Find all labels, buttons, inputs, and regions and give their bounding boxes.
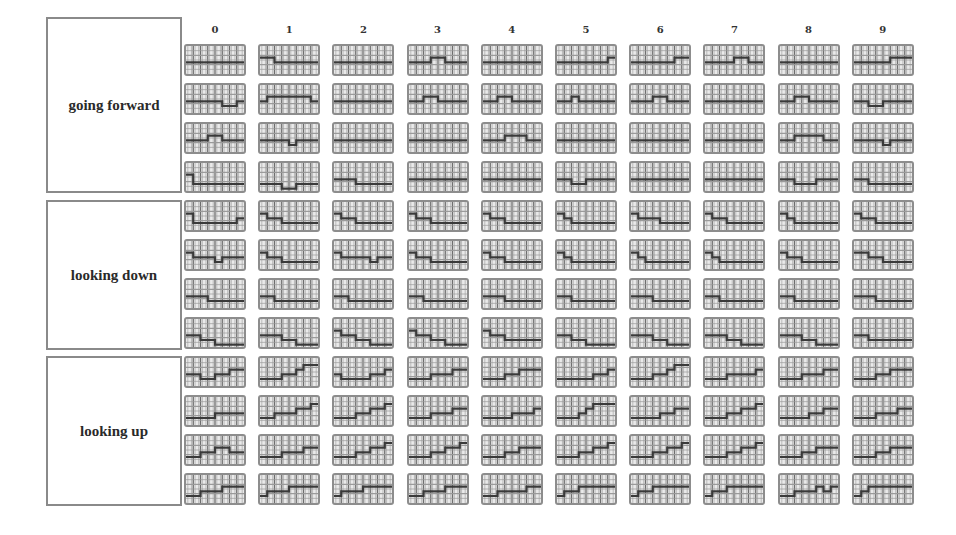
step-plot-cell (258, 434, 320, 466)
step-plot-cell (629, 161, 691, 193)
step-plot-cell (184, 317, 246, 349)
step-plot-cell (332, 200, 394, 232)
step-plot-cell (629, 356, 691, 388)
step-plot-cell (852, 122, 914, 154)
step-plot-cell (852, 434, 914, 466)
step-plot-cell (703, 44, 765, 76)
column-header-2: 2 (332, 24, 394, 35)
step-plot-cell (407, 473, 469, 505)
step-plot-cell (481, 395, 543, 427)
step-plot-cell (407, 278, 469, 310)
step-plot-cell (778, 161, 840, 193)
step-plot-cell (258, 356, 320, 388)
step-plot-cell (555, 239, 617, 271)
step-plot-cell (852, 83, 914, 115)
step-plot-cell (481, 239, 543, 271)
step-plot-cell (778, 83, 840, 115)
step-plot-cell (258, 239, 320, 271)
step-plot-cell (629, 239, 691, 271)
step-plot-cell (332, 161, 394, 193)
step-plot-cell (481, 122, 543, 154)
step-plot-cell (481, 161, 543, 193)
group-box-looking-up: looking up (46, 356, 182, 506)
step-plot-cell (703, 395, 765, 427)
step-plot-cell (555, 473, 617, 505)
step-plot-cell (481, 83, 543, 115)
step-plot-cell (481, 317, 543, 349)
step-plot-cell (852, 239, 914, 271)
group-box-going-forward: going forward (46, 17, 182, 193)
step-plot-cell (332, 122, 394, 154)
step-plot-cell (629, 200, 691, 232)
step-plot-cell (778, 278, 840, 310)
column-header-7: 7 (703, 24, 765, 35)
step-plot-cell (332, 239, 394, 271)
step-plot-cell (629, 317, 691, 349)
step-plot-cell (184, 239, 246, 271)
column-header-1: 1 (258, 24, 320, 35)
step-plot-cell (852, 395, 914, 427)
step-plot-cell (407, 239, 469, 271)
step-plot-cell (407, 122, 469, 154)
step-plot-cell (407, 356, 469, 388)
step-plot-cell (703, 239, 765, 271)
step-plot-cell (555, 395, 617, 427)
step-plot-cell (332, 434, 394, 466)
step-plot-cell (778, 122, 840, 154)
column-header-9: 9 (852, 24, 914, 35)
step-plot-cell (778, 395, 840, 427)
step-plot-cell (778, 44, 840, 76)
step-plot-cell (481, 473, 543, 505)
step-plot-cell (184, 200, 246, 232)
step-plot-cell (332, 278, 394, 310)
step-plot-cell (332, 317, 394, 349)
step-plot-cell (184, 356, 246, 388)
step-plot-cell (258, 473, 320, 505)
step-plot-cell (258, 395, 320, 427)
step-plot-cell (481, 278, 543, 310)
step-plot-cell (629, 395, 691, 427)
step-plot-cell (184, 434, 246, 466)
step-plot-cell (703, 434, 765, 466)
step-plot-cell (184, 161, 246, 193)
step-plot-cell (555, 356, 617, 388)
step-plot-cell (258, 44, 320, 76)
step-plot-cell (555, 317, 617, 349)
step-plot-cell (778, 317, 840, 349)
step-plot-cell (703, 161, 765, 193)
column-header-5: 5 (555, 24, 617, 35)
step-plot-cell (555, 122, 617, 154)
step-plot-cell (555, 161, 617, 193)
step-plot-cell (407, 434, 469, 466)
step-plot-cell (407, 44, 469, 76)
group-label: looking up (80, 423, 148, 440)
step-plot-cell (332, 473, 394, 505)
step-plot-cell (332, 356, 394, 388)
step-plot-cell (852, 317, 914, 349)
group-box-looking-down: looking down (46, 200, 182, 350)
step-plot-cell (778, 239, 840, 271)
column-header-3: 3 (407, 24, 469, 35)
step-plot-cell (407, 395, 469, 427)
column-header-4: 4 (481, 24, 543, 35)
step-plot-cell (407, 317, 469, 349)
step-plot-cell (481, 434, 543, 466)
step-plot-cell (852, 161, 914, 193)
step-plot-cell (332, 395, 394, 427)
step-plot-cell (703, 122, 765, 154)
step-plot-cell (184, 44, 246, 76)
step-plot-cell (258, 278, 320, 310)
step-plot-cell (481, 356, 543, 388)
step-plot-cell (555, 200, 617, 232)
step-plot-cell (703, 83, 765, 115)
step-plot-cell (258, 317, 320, 349)
step-plot-cell (629, 434, 691, 466)
step-plot-cell (703, 278, 765, 310)
step-plot-cell (407, 200, 469, 232)
step-plot-cell (852, 44, 914, 76)
step-plot-cell (184, 122, 246, 154)
step-plot-cell (555, 44, 617, 76)
step-plot-cell (258, 200, 320, 232)
step-plot-cell (332, 44, 394, 76)
column-header-0: 0 (184, 24, 246, 35)
